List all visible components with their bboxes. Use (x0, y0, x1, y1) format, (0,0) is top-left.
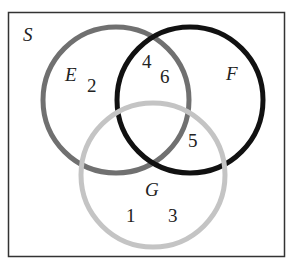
set-e-label: E (64, 64, 77, 85)
element-5: 5 (188, 130, 198, 151)
element-2: 2 (87, 75, 97, 96)
set-g-circle (81, 103, 225, 247)
set-f-label: F (225, 63, 238, 84)
element-3: 3 (168, 205, 178, 226)
element-1: 1 (126, 205, 136, 226)
universe-label: S (23, 24, 33, 45)
element-6: 6 (160, 66, 170, 87)
venn-diagram: S E F G 2 4 6 5 1 3 (0, 0, 290, 265)
element-4: 4 (142, 51, 152, 72)
set-g-label: G (145, 179, 159, 200)
